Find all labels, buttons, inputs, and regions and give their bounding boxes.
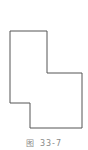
caption-prefix: 图 [26,139,35,148]
polygon-outline [10,31,82,128]
figure-caption: 图33-7 [0,139,88,149]
caption-number: 33-7 [40,139,62,148]
stepped-polygon-shape [0,0,88,150]
figure: 图33-7 [0,0,88,150]
